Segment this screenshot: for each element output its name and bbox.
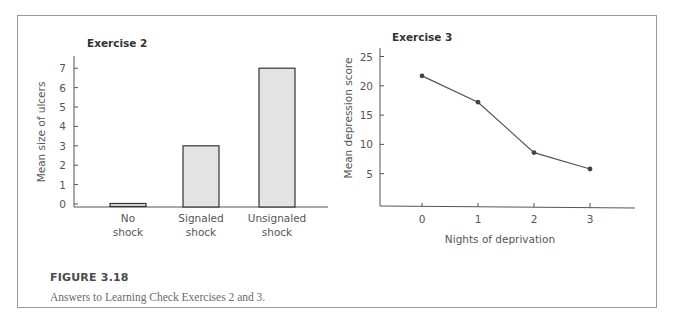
bar-category-label: Unsignaled bbox=[248, 212, 307, 224]
data-point bbox=[420, 73, 425, 78]
bar-category-label: shock bbox=[262, 226, 293, 238]
line-x-tick-label: 0 bbox=[419, 213, 426, 225]
figure-label: FIGURE 3.18 bbox=[50, 271, 129, 284]
data-point bbox=[532, 150, 537, 155]
line-y-tick-label: 5 bbox=[366, 168, 373, 180]
data-point bbox=[588, 167, 593, 172]
bar bbox=[259, 68, 295, 207]
bar-y-tick-label: 7 bbox=[59, 62, 66, 74]
bar-category-label: No bbox=[121, 212, 135, 224]
bar-y-tick-label: 5 bbox=[59, 101, 66, 113]
line-y-axis-label: Mean depression score bbox=[342, 58, 354, 179]
bar-y-tick-label: 6 bbox=[59, 82, 66, 94]
line-chart-title: Exercise 3 bbox=[392, 31, 452, 43]
line-x-axis bbox=[380, 206, 635, 208]
bar-category-label: shock bbox=[113, 226, 144, 238]
bar bbox=[110, 204, 146, 207]
line-x-tick-label: 1 bbox=[475, 213, 482, 225]
data-point bbox=[476, 100, 481, 105]
bar-chart-title: Exercise 2 bbox=[87, 37, 147, 49]
line-y-tick-label: 15 bbox=[360, 109, 373, 121]
bar-y-tick-label: 0 bbox=[59, 198, 66, 210]
line-x-tick-label: 2 bbox=[531, 213, 538, 225]
line-x-tick-label: 3 bbox=[587, 213, 594, 225]
bar bbox=[183, 146, 219, 207]
line-y-tick-label: 10 bbox=[360, 138, 373, 150]
bar-y-tick-label: 3 bbox=[59, 140, 66, 152]
bar-category-label: shock bbox=[186, 226, 217, 238]
bar-y-tick-label: 2 bbox=[59, 159, 66, 171]
bar-y-tick-label: 1 bbox=[59, 179, 66, 191]
bar-category-label: Signaled bbox=[178, 212, 223, 224]
line-y-tick-label: 25 bbox=[360, 51, 373, 63]
figure-caption: Answers to Learning Check Exercises 2 an… bbox=[50, 291, 265, 303]
line-y-tick-label: 20 bbox=[360, 80, 373, 92]
data-line bbox=[422, 76, 590, 169]
bar-y-tick-label: 4 bbox=[59, 120, 66, 132]
line-x-axis-label: Nights of deprivation bbox=[445, 233, 555, 245]
bar-y-axis-label: Mean size of ulcers bbox=[35, 82, 47, 183]
